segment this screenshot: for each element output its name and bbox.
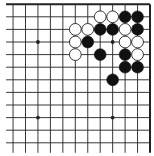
white-stone-n16	[69, 36, 81, 48]
white-stone-s16	[132, 36, 144, 48]
star-point-q10	[111, 116, 115, 120]
black-stone-o16	[82, 36, 94, 48]
white-stone-p18	[94, 11, 106, 23]
black-stone-r15	[119, 49, 131, 61]
black-stone-p17	[94, 24, 106, 36]
black-stone-s14	[132, 61, 144, 73]
white-stone-n15	[69, 49, 81, 61]
black-stone-s18	[132, 11, 144, 23]
white-stone-n17	[69, 24, 81, 36]
white-stone-q18	[107, 11, 119, 23]
star-point-q16	[111, 40, 115, 44]
black-stone-r14	[119, 61, 131, 73]
star-point-k16	[36, 40, 40, 44]
go-board-svg	[0, 0, 154, 156]
white-stone-r16	[119, 36, 131, 48]
stones	[69, 11, 143, 86]
go-board-diagram	[0, 0, 154, 156]
black-stone-p15	[94, 49, 106, 61]
black-stone-r18	[119, 11, 131, 23]
black-stone-q17	[107, 24, 119, 36]
white-stone-o17	[82, 24, 94, 36]
white-stone-r17	[119, 24, 131, 36]
black-stone-q13	[107, 74, 119, 86]
white-stone-s15	[132, 49, 144, 61]
star-point-k10	[36, 116, 40, 120]
black-stone-s17	[132, 24, 144, 36]
